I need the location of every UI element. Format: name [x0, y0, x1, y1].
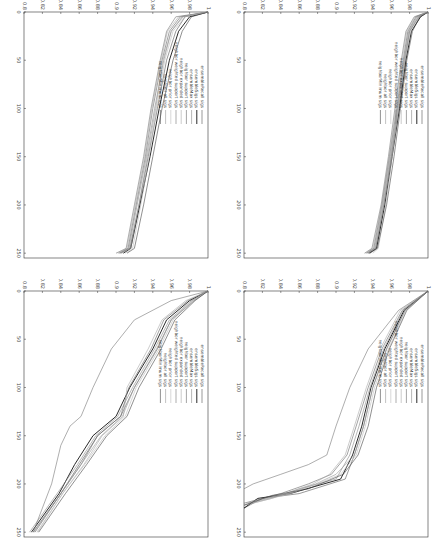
x-tick-label: 200: [236, 479, 242, 489]
y-tick-label: 0.98: [407, 0, 413, 10]
y-tick-label: 0.86: [77, 279, 83, 289]
axes-box: [24, 291, 208, 537]
x-tick-label: 50: [16, 336, 22, 342]
y-tick-label: 0.94: [370, 279, 376, 289]
x-tick-label: 150: [16, 152, 22, 162]
x-tick-label: 150: [16, 431, 22, 441]
y-tick-label: 0.9: [114, 2, 120, 10]
x-tick-label: 250: [236, 248, 242, 258]
chart-svg: 0501001502002500.80.820.840.860.880.90.9…: [220, 279, 440, 557]
y-tick-label: 0.86: [297, 0, 303, 10]
x-tick-label: 100: [236, 104, 242, 114]
x-tick-label: 0: [236, 289, 242, 292]
y-tick-label: 1: [206, 7, 212, 10]
series-line: [39, 291, 208, 532]
y-tick-label: 0.84: [58, 279, 64, 289]
y-tick-label: 0.92: [132, 279, 138, 289]
axes-box: [244, 291, 428, 537]
series-line: [34, 291, 208, 532]
x-tick-label: 50: [16, 57, 22, 63]
series-line: [244, 291, 428, 508]
axes-box: [244, 12, 428, 258]
series-line: [127, 12, 208, 253]
y-tick-label: 0.9: [114, 281, 120, 289]
y-tick-label: 0.9: [334, 281, 340, 289]
y-tick-label: 0.86: [77, 0, 83, 10]
y-tick-label: 0.8: [242, 2, 248, 10]
y-tick-label: 0.8: [242, 281, 248, 289]
series-line: [37, 291, 208, 532]
y-tick-label: 0.98: [407, 279, 413, 289]
x-tick-label: 250: [16, 248, 22, 258]
chart-svg: 0501001502002500.80.820.840.860.880.90.9…: [0, 279, 220, 557]
x-tick-label: 50: [236, 336, 242, 342]
y-tick-label: 0.88: [315, 279, 321, 289]
y-tick-label: 1: [206, 286, 212, 289]
series-line: [116, 12, 208, 253]
y-tick-label: 0.96: [389, 0, 395, 10]
y-tick-label: 0.96: [169, 279, 175, 289]
x-tick-label: 200: [236, 200, 242, 210]
y-tick-label: 0.88: [315, 0, 321, 10]
y-tick-label: 0.84: [278, 279, 284, 289]
legend-label: neighborMinimum sigs: [378, 339, 383, 387]
chart-panel-top-right: 0501001502002500.80.820.840.860.880.90.9…: [220, 0, 440, 278]
y-tick-label: 0.94: [150, 0, 156, 10]
x-tick-label: 0: [16, 289, 22, 292]
x-tick-label: 250: [236, 527, 242, 537]
y-tick-label: 0.84: [58, 0, 64, 10]
legend-label: neighborMinimum sigs: [378, 60, 383, 108]
axes-box: [24, 12, 208, 258]
y-tick-label: 0.82: [40, 0, 46, 10]
x-tick-label: 0: [16, 10, 22, 13]
y-tick-label: 0.9: [334, 2, 340, 10]
y-tick-label: 1: [426, 286, 432, 289]
legend-label: neighborMinimum sigs: [158, 339, 163, 387]
series-line: [373, 12, 428, 253]
y-tick-label: 0.92: [352, 0, 358, 10]
x-tick-label: 0: [236, 10, 242, 13]
y-tick-label: 0.96: [169, 0, 175, 10]
y-tick-label: 0.96: [389, 279, 395, 289]
legend-label: neighborMinimum sigs: [158, 60, 163, 108]
y-tick-label: 0.84: [278, 0, 284, 10]
x-tick-label: 150: [236, 152, 242, 162]
x-tick-label: 50: [236, 57, 242, 63]
chart-panel-bottom-left: 0501001502002500.80.820.840.860.880.90.9…: [0, 279, 220, 557]
y-tick-label: 0.98: [187, 0, 193, 10]
chart-svg: 0501001502002500.80.820.840.860.880.90.9…: [0, 0, 220, 278]
series-line: [123, 12, 208, 253]
y-tick-label: 0.86: [297, 279, 303, 289]
y-tick-label: 0.92: [352, 279, 358, 289]
y-tick-label: 0.82: [260, 279, 266, 289]
series-line: [244, 291, 428, 489]
y-tick-label: 0.8: [22, 281, 28, 289]
y-tick-label: 1: [426, 7, 432, 10]
series-line: [31, 291, 208, 532]
series-line: [122, 12, 209, 253]
y-tick-label: 0.82: [40, 279, 46, 289]
y-tick-label: 0.88: [95, 0, 101, 10]
y-tick-label: 0.94: [150, 279, 156, 289]
x-tick-label: 200: [16, 479, 22, 489]
x-tick-label: 200: [16, 200, 22, 210]
chart-svg: 0501001502002500.80.820.840.860.880.90.9…: [220, 0, 440, 278]
series-line: [246, 291, 428, 503]
y-tick-label: 0.88: [95, 279, 101, 289]
chart-panel-top-left: 0501001502002500.80.820.840.860.880.90.9…: [0, 0, 220, 278]
y-tick-label: 0.82: [260, 0, 266, 10]
x-tick-label: 250: [16, 527, 22, 537]
y-tick-label: 0.98: [187, 279, 193, 289]
x-tick-label: 100: [16, 383, 22, 393]
x-tick-label: 150: [236, 431, 242, 441]
series-line: [244, 291, 428, 508]
y-tick-label: 0.92: [132, 0, 138, 10]
chart-panel-bottom-right: 0501001502002500.80.820.840.860.880.90.9…: [220, 279, 440, 557]
x-tick-label: 100: [16, 104, 22, 114]
y-tick-label: 0.94: [370, 0, 376, 10]
y-tick-label: 0.8: [22, 2, 28, 10]
x-tick-label: 100: [236, 383, 242, 393]
